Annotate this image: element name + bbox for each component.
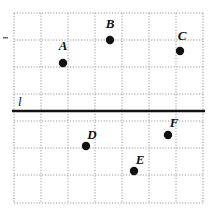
- point-f-marker: [164, 131, 172, 139]
- line-l-label: l: [18, 94, 22, 109]
- left-edge-tick-mark: [3, 37, 8, 39]
- point-d-marker: [82, 142, 90, 150]
- figure-canvas: l ABCDEF: [0, 0, 213, 216]
- grid-figure: l ABCDEF: [0, 0, 213, 216]
- point-a-label: A: [58, 38, 68, 53]
- point-b-label: B: [105, 16, 115, 31]
- point-f-label: F: [169, 115, 179, 130]
- point-e-label: E: [135, 152, 145, 167]
- point-b-marker: [106, 36, 114, 44]
- point-a: A: [58, 38, 68, 67]
- point-c-label: C: [178, 28, 187, 43]
- left-edge-tick: [3, 37, 8, 39]
- point-e-marker: [130, 167, 138, 175]
- point-b: B: [105, 16, 115, 44]
- point-d-label: D: [86, 127, 97, 142]
- point-a-marker: [59, 59, 67, 67]
- point-c-marker: [176, 47, 184, 55]
